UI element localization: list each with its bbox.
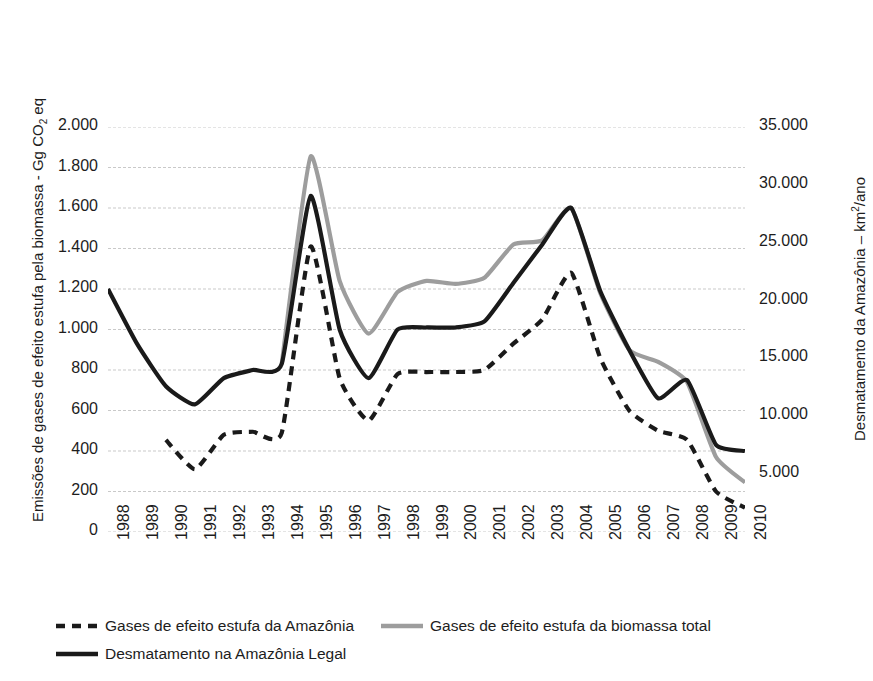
series-line (108, 196, 745, 451)
y-axis-right-tick-label: - (759, 521, 839, 539)
y-axis-left-title: Emissões de gases de efeito estufa pela … (29, 85, 49, 535)
y-axis-right-tick-label: 10.000 (759, 405, 839, 423)
y-axis-left-tick-label: 800 (26, 359, 98, 377)
legend-label-desmatamento: Desmatamento na Amazônia Legal (105, 646, 346, 662)
chart-legend: Gases de efeito estufa da Amazônia Gases… (55, 612, 855, 668)
y-axis-left-tick-label: 1.800 (26, 157, 98, 175)
y-axis-right-tick-label: 5.000 (759, 463, 839, 481)
y-axis-left-tick-label: 600 (26, 400, 98, 418)
y-axis-right-tick-label: 25.000 (759, 232, 839, 250)
solid-gray-line-swatch-icon (380, 620, 424, 632)
legend-item-gases-biomassa-total[interactable]: Gases de efeito estufa da biomassa total (380, 618, 711, 634)
legend-item-desmatamento[interactable]: Desmatamento na Amazônia Legal (55, 646, 346, 662)
y-axis-left-tick-label: 1.600 (26, 197, 98, 215)
legend-label-gases-biomassa-total: Gases de efeito estufa da biomassa total (430, 618, 711, 634)
series-lines (108, 156, 745, 508)
y-axis-right-title: Desmatamento da Amazônia – km2/ano (850, 84, 868, 534)
y-axis-right-tick-label: 15.000 (759, 347, 839, 365)
y-axis-left-tick-label: 400 (26, 440, 98, 458)
dashed-line-swatch-icon (55, 620, 99, 632)
y-axis-left-tick-label: 2.000 (26, 116, 98, 134)
y-axis-left-tick-label: 1.000 (26, 319, 98, 337)
y-axis-left-tick-label: 1.400 (26, 238, 98, 256)
y-axis-right-tick-label: 20.000 (759, 290, 839, 308)
y-axis-right-tick-label: 35.000 (759, 116, 839, 134)
y-axis-left-tick-label: 1.200 (26, 278, 98, 296)
series-canvas (108, 127, 745, 532)
plot-area (108, 127, 745, 532)
series-line (282, 156, 745, 482)
chart-container: Emissões de gases de efeito estufa pela … (0, 0, 873, 681)
x-axis-tick-label: 2010 (752, 504, 770, 540)
legend-label-gases-amazonia: Gases de efeito estufa da Amazônia (105, 618, 354, 634)
y-axis-left-tick-label: 200 (26, 481, 98, 499)
y-axis-right-tick-label: 30.000 (759, 174, 839, 192)
legend-item-gases-amazonia[interactable]: Gases de efeito estufa da Amazônia (55, 618, 354, 634)
legend-row-1: Gases de efeito estufa da Amazônia Gases… (55, 612, 855, 640)
legend-row-2: Desmatamento na Amazônia Legal (55, 640, 855, 668)
y-axis-left-tick-label: 0 (26, 521, 98, 539)
solid-black-line-swatch-icon (55, 648, 99, 660)
